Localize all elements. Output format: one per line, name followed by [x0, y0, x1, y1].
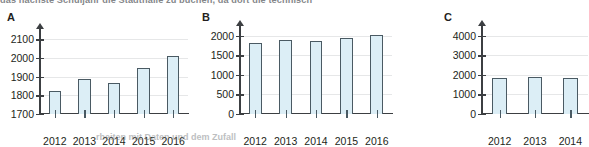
x-tick [316, 110, 317, 118]
y-tick [236, 114, 244, 115]
y-tick [478, 55, 486, 56]
y-axis-arrow-c [478, 20, 486, 26]
y-axis-labels-a: 17001800190020002100 [0, 30, 34, 114]
y-tick-label: 0 [470, 109, 476, 120]
y-axis-arrow-a [36, 23, 44, 29]
y-tick-label: 1000 [211, 70, 234, 81]
gridline [240, 36, 392, 37]
y-tick-label: 2000 [11, 53, 34, 64]
y-axis-arrow-b [236, 20, 244, 26]
x-tick [570, 110, 571, 118]
x-tick [346, 110, 347, 118]
plot-area-b: 20122013201420152016 [240, 30, 392, 114]
y-tick [36, 77, 44, 78]
panel-label-b: B [202, 12, 210, 23]
y-tick [478, 36, 486, 37]
bar [78, 79, 90, 114]
y-tick-label: 3000 [453, 50, 476, 61]
clipped-footer-text: rbeiten mit Daten und dem Zufall [96, 132, 588, 142]
y-tick-label: 1500 [211, 50, 234, 61]
x-tick-label: 2012 [43, 136, 66, 147]
y-tick [478, 75, 486, 76]
y-tick [236, 75, 244, 76]
y-tick-label: 2000 [211, 31, 234, 42]
x-tick-label: 2013 [73, 136, 96, 147]
plot-area-c: 201220132014 [482, 30, 588, 114]
y-axis-labels-b: 0500100015002000 [200, 30, 234, 114]
y-tick [478, 94, 486, 95]
y-tick-label: 1800 [11, 90, 34, 101]
y-tick [236, 36, 244, 37]
gridline [482, 55, 588, 56]
gridline [482, 75, 588, 76]
x-tick [84, 110, 85, 118]
bar [563, 78, 578, 114]
gridline [40, 77, 188, 78]
bar [279, 40, 292, 114]
bar [340, 38, 353, 114]
bar [310, 41, 323, 114]
y-axis-labels-c: 01000200030004000 [440, 30, 476, 114]
chart-panel-c: C 01000200030004000 201220132014 [440, 12, 588, 136]
x-tick [377, 110, 378, 118]
bar [249, 43, 262, 114]
y-tick [236, 94, 244, 95]
clipped-header-text: das nächste Schuljahr die Stadthalle zu … [0, 0, 588, 6]
bar [167, 56, 179, 114]
x-tick [535, 110, 536, 118]
x-tick [55, 110, 56, 118]
gridline [40, 58, 188, 59]
y-tick-label: 2100 [11, 34, 34, 45]
bar [370, 35, 383, 114]
y-tick-label: 1900 [11, 72, 34, 83]
y-tick-label: 0 [228, 109, 234, 120]
gridline [40, 39, 188, 40]
y-tick [36, 95, 44, 96]
bar [137, 68, 149, 114]
bar [492, 78, 507, 114]
y-tick-label: 4000 [453, 31, 476, 42]
y-tick [478, 114, 486, 115]
y-tick-label: 500 [216, 89, 234, 100]
bar [528, 77, 543, 114]
gridline [482, 36, 588, 37]
plot-area-a: 20122013201420152016 [40, 30, 188, 114]
x-tick [173, 110, 174, 118]
x-tick [255, 110, 256, 118]
y-tick [36, 114, 44, 115]
panel-label-a: A [7, 12, 15, 23]
chart-panel-b: B 0500100015002000 20122013201420152016 [200, 12, 400, 136]
chart-panel-a: A 17001800190020002100 20122013201420152… [0, 12, 196, 136]
y-tick [236, 55, 244, 56]
x-tick [500, 110, 501, 118]
y-tick [36, 58, 44, 59]
y-tick-label: 2000 [453, 70, 476, 81]
x-tick [114, 110, 115, 118]
x-tick [286, 110, 287, 118]
y-tick-label: 1700 [11, 109, 34, 120]
x-tick [144, 110, 145, 118]
panel-label-c: C [444, 12, 452, 23]
y-tick [36, 39, 44, 40]
y-tick-label: 1000 [453, 89, 476, 100]
